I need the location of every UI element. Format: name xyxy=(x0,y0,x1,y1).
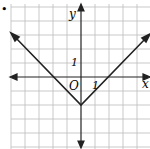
y-tick-label: 1 xyxy=(71,56,78,69)
axes xyxy=(10,4,150,148)
y-axis-label: y xyxy=(68,7,76,21)
x-tick-label: 1 xyxy=(92,79,99,92)
x-axis-label: x xyxy=(142,77,149,91)
bullet: • xyxy=(1,3,8,16)
origin-label: O xyxy=(69,79,79,93)
coordinate-plane: • y x O 1 1 xyxy=(0,0,150,149)
